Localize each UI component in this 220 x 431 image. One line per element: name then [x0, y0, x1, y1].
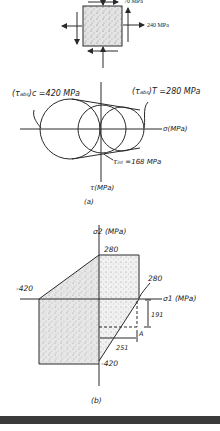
leader-tension [144, 102, 148, 128]
label-251: 251 [116, 344, 128, 352]
leader-280-right [139, 283, 150, 298]
figure-canvas: 70 MPa 240 MPa (τabs)c =420 MPa (τabs)T … [0, 0, 220, 431]
label-tau-abs-compression: (τabs)c =420 MPa [12, 89, 80, 98]
label-tau-axis: τ(MPa) [90, 184, 114, 192]
mohr-circles-diagram: (τabs)c =420 MPa (τabs)T =280 MPa τint =… [12, 82, 201, 206]
label-tau-int: τint =168 MPa [113, 158, 161, 166]
label-sigma2-axis: σ2 (MPa) [93, 227, 126, 236]
envelope-upper [72, 99, 140, 110]
leader-shear [104, 154, 113, 160]
label-70mpa: 70 MPa [124, 0, 143, 4]
label-A: A [138, 330, 143, 338]
caption-b: (b) [91, 396, 102, 405]
label-neg420-bottom: -420 [101, 359, 118, 368]
failure-envelope-diagram: σ2 (MPa) 280 280 -420 σ1 (MPa) 191 A 251… [16, 225, 196, 405]
page-bottom-bar [0, 416, 220, 424]
label-sigma1-axis: σ1 (MPa) [163, 294, 196, 303]
label-neg420-left: -420 [16, 284, 33, 293]
label-280-right: 280 [148, 274, 163, 283]
safe-region-dense [39, 255, 99, 364]
stress-element: 70 MPa 240 MPa [62, 0, 169, 68]
label-280-top: 280 [104, 245, 119, 254]
label-tau-abs-tension: (τabs)T =280 MPa [132, 87, 201, 96]
caption-a: (a) [84, 198, 94, 206]
label-191: 191 [151, 311, 163, 319]
label-sigma-axis: σ(MPa) [163, 125, 188, 133]
element-square [83, 6, 122, 46]
label-240mpa: 240 MPa [147, 22, 169, 28]
